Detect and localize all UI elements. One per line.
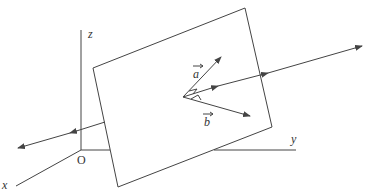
vector-b-label: b [204, 115, 210, 129]
diagram-canvas: z y x O a b [0, 0, 372, 196]
z-axis-label: z [87, 27, 93, 41]
vector-a-label-group: a [193, 64, 203, 81]
vector-b-label-group: b [203, 112, 213, 129]
x-axis [16, 150, 81, 186]
normal-line-left [18, 122, 105, 148]
normal-line-right [183, 46, 362, 97]
origin-label: O [77, 153, 86, 167]
vector-a-label: a [193, 67, 199, 81]
vector-b [183, 97, 250, 116]
y-axis-label: y [290, 132, 297, 146]
plane [93, 8, 272, 187]
x-axis-label: x [1, 178, 8, 192]
